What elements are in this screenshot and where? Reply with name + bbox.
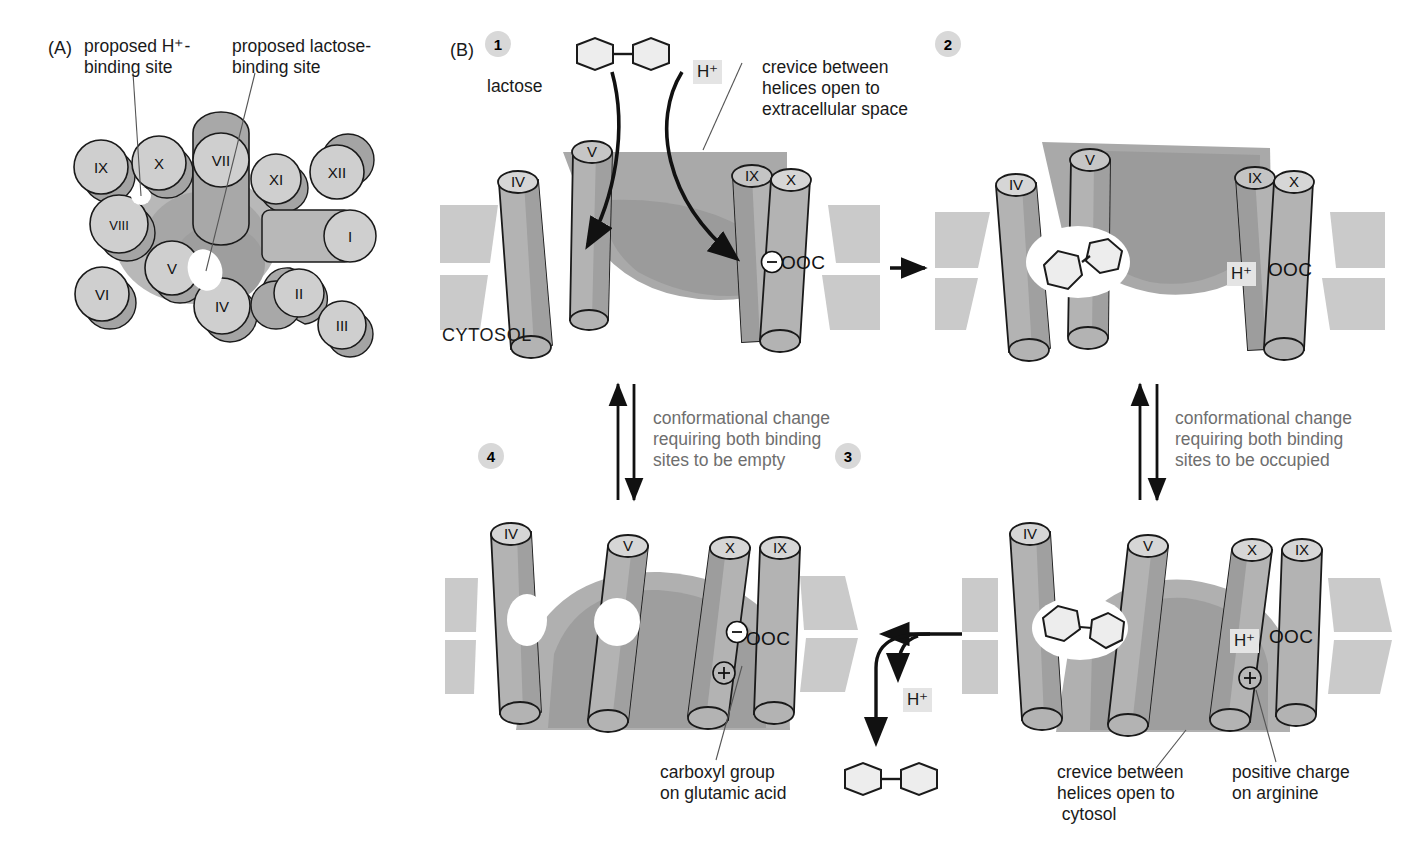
carboxylate-label-step1: OOC <box>781 252 825 274</box>
svg-text:IV: IV <box>1009 176 1023 193</box>
vertical-arrows-right <box>1140 384 1157 500</box>
carboxyl-label-step4: carboxyl group on glutamic acid <box>660 762 786 804</box>
svg-text:I: I <box>348 228 352 245</box>
svg-text:IX: IX <box>94 159 108 176</box>
panel-b-tag: (B) <box>450 40 474 61</box>
transition-empty-text: conformational change requiring both bin… <box>653 408 830 471</box>
svg-text:V: V <box>167 260 177 277</box>
svg-text:III: III <box>336 317 349 334</box>
cytosol-label-step1: CYTOSOL <box>442 325 532 346</box>
svg-text:IX: IX <box>745 167 759 184</box>
carboxylate-label-step2: OOC <box>1268 259 1312 281</box>
arginine-label-step3: positive charge on arginine <box>1232 762 1350 804</box>
h-binding-site-label: proposed H⁺- binding site <box>84 36 190 78</box>
bound-lactose-step2 <box>1026 226 1130 298</box>
transition-occupied-text: conformational change requiring both bin… <box>1175 408 1352 471</box>
svg-text:IX: IX <box>1248 169 1262 186</box>
svg-text:X: X <box>786 171 796 188</box>
proton-label-step2: H⁺ <box>1227 262 1256 286</box>
lactose-molecule-step1 <box>577 38 669 70</box>
panel-b-step-2-graphic: IV V IX X <box>935 142 1385 361</box>
bound-lactose-step3 <box>1032 596 1128 660</box>
step-badge-4: 4 <box>478 443 504 469</box>
proton-label-step1: H⁺ <box>693 60 722 84</box>
svg-text:IV: IV <box>1023 525 1037 542</box>
svg-text:X: X <box>1247 541 1257 558</box>
lactose-label-step1: lactose <box>487 76 542 97</box>
svg-text:II: II <box>295 285 303 302</box>
carboxylate-step1 <box>762 252 783 273</box>
positive-charge-step4 <box>713 662 735 684</box>
proton-label-step3: H⁺ <box>1230 629 1259 653</box>
svg-text:IV: IV <box>504 525 518 542</box>
svg-text:VII: VII <box>212 152 230 169</box>
svg-text:IV: IV <box>215 298 229 315</box>
svg-text:V: V <box>623 537 633 554</box>
helix-V-step1: V <box>570 141 612 330</box>
crevice-cytosol-label-step3: crevice between helices open to cytosol <box>1057 762 1183 825</box>
svg-text:XI: XI <box>269 171 283 188</box>
vertical-arrows-left <box>618 384 634 500</box>
carboxylate-step4 <box>727 622 748 643</box>
svg-text:V: V <box>1085 151 1095 168</box>
step-badge-1: 1 <box>485 31 511 57</box>
svg-text:IV: IV <box>511 173 525 190</box>
lactose-binding-site-label: proposed lactose- binding site <box>232 36 371 78</box>
released-proton-label: H⁺ <box>903 688 932 712</box>
svg-text:IX: IX <box>773 539 787 556</box>
step-badge-3: 3 <box>835 443 861 469</box>
svg-text:XII: XII <box>328 164 346 181</box>
panel-a-helix-I: I <box>262 210 376 262</box>
released-lactose <box>845 763 937 795</box>
step-badge-2: 2 <box>935 31 961 57</box>
svg-text:X: X <box>1289 173 1299 190</box>
svg-text:VIII: VIII <box>109 218 129 233</box>
carboxylate-label-step3: OOC <box>1269 626 1313 648</box>
crevice-step4 <box>516 572 790 730</box>
crevice-label-step1: crevice between helices open to extracel… <box>762 57 908 120</box>
positive-charge-step3 <box>1239 667 1261 689</box>
svg-text:V: V <box>587 143 597 160</box>
svg-text:X: X <box>154 155 164 172</box>
panel-b-step-4-graphic: IV V X IX <box>445 523 858 760</box>
carboxylate-label-step4: OOC <box>746 628 790 650</box>
panel-a-graphic: VII II I IX X XI XII VIII <box>74 73 376 357</box>
svg-text:VI: VI <box>95 286 109 303</box>
figure-canvas: VII II I IX X XI XII VIII <box>0 0 1412 864</box>
panel-b-step-3-graphic: IV V X IX <box>962 523 1392 768</box>
panel-a-tag: (A) <box>48 38 72 59</box>
svg-text:X: X <box>725 539 735 556</box>
svg-text:V: V <box>1143 537 1153 554</box>
svg-text:IX: IX <box>1295 541 1309 558</box>
